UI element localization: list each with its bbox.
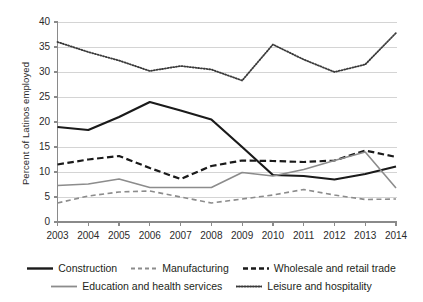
series-line-manufacturing xyxy=(58,190,397,204)
chart-legend: ConstructionManufacturingWholesale and r… xyxy=(0,258,423,302)
legend-entry[interactable]: Education and health services xyxy=(51,280,222,292)
legend-swatch-dotted-black-icon xyxy=(236,281,262,292)
chart-plot-area xyxy=(0,0,423,302)
data-series-group xyxy=(58,33,397,203)
series-line-construction xyxy=(58,102,397,180)
y-tick-label: 0 xyxy=(28,216,50,227)
legend-label: Wholesale and retail trade xyxy=(274,262,396,274)
legend-label: Education and health services xyxy=(82,280,222,292)
y-tick-label: 5 xyxy=(28,191,50,202)
legend-swatch-solid-gray-icon xyxy=(51,281,77,292)
legend-entry[interactable]: Construction xyxy=(27,262,117,274)
y-tick-label: 15 xyxy=(28,141,50,152)
x-tick-label: 2014 xyxy=(376,230,416,241)
legend-swatch-dashed-black-icon xyxy=(243,263,269,274)
y-tick-label: 10 xyxy=(28,166,50,177)
y-tick-label: 40 xyxy=(28,16,50,27)
legend-row-secondary: Education and health servicesLeisure and… xyxy=(0,276,423,296)
legend-label: Leisure and hospitality xyxy=(267,280,371,292)
legend-entry[interactable]: Leisure and hospitality xyxy=(236,280,371,292)
y-tick-label: 20 xyxy=(28,116,50,127)
series-line-wholesale-and-retail-trade xyxy=(58,151,397,180)
y-tick-label: 35 xyxy=(28,41,50,52)
legend-entry[interactable]: Wholesale and retail trade xyxy=(243,262,396,274)
legend-row-primary: ConstructionManufacturingWholesale and r… xyxy=(0,258,423,278)
legend-swatch-solid-black-icon xyxy=(27,263,53,274)
line-chart-figure: Percent of Latinos employed 403530252015… xyxy=(0,0,423,302)
legend-label: Manufacturing xyxy=(162,262,229,274)
y-tick-label: 30 xyxy=(28,66,50,77)
series-line-leisure-and-hospitality xyxy=(58,33,397,81)
legend-swatch-dashed-gray-icon xyxy=(131,263,157,274)
legend-entry[interactable]: Manufacturing xyxy=(131,262,229,274)
legend-label: Construction xyxy=(58,262,117,274)
y-tick-label: 25 xyxy=(28,91,50,102)
